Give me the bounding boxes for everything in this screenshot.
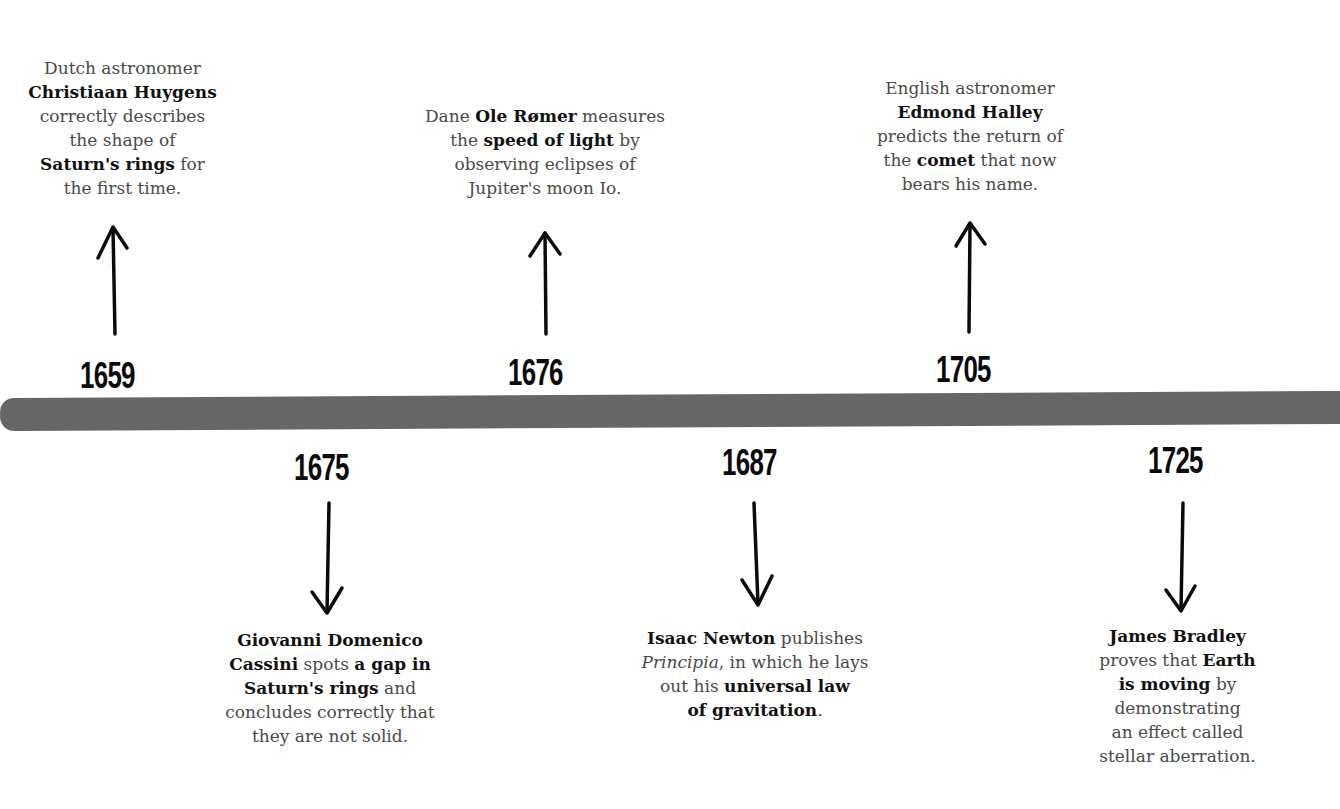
description-line: concludes correctly that <box>195 700 465 724</box>
description-line: demonstrating <box>1070 696 1285 720</box>
description-line: the speed of light by <box>390 128 700 152</box>
event-1725-description: James Bradleyproves that Earthis moving … <box>1070 624 1285 768</box>
arrow-down-icon <box>738 500 780 612</box>
description-line: the shape of <box>0 128 245 152</box>
description-line: is moving by <box>1070 672 1285 696</box>
description-line: an effect called <box>1070 720 1285 744</box>
arrow-up-icon <box>952 218 992 336</box>
description-line: bears his name. <box>845 172 1095 196</box>
description-line: English astronomer <box>845 76 1095 100</box>
description-line: Cassini spots a gap in <box>195 652 465 676</box>
event-1675-description: Giovanni DomenicoCassini spots a gap inS… <box>195 628 465 748</box>
description-line: of gravitation. <box>605 698 905 722</box>
description-line: James Bradley <box>1070 624 1285 648</box>
year-1676: 1676 <box>508 355 563 391</box>
event-1687-description: Isaac Newton publishesPrincipia, in whic… <box>605 626 905 722</box>
description-line: out his universal law <box>605 674 905 698</box>
description-line: correctly describes <box>0 104 245 128</box>
event-1659-description: Dutch astronomerChristiaan Huygenscorrec… <box>0 56 245 200</box>
timeline-band <box>0 391 1340 431</box>
description-line: Christiaan Huygens <box>0 80 245 104</box>
description-line: the first time. <box>0 176 245 200</box>
description-line: Dutch astronomer <box>0 56 245 80</box>
description-line: Saturn's rings and <box>195 676 465 700</box>
description-line: Isaac Newton publishes <box>605 626 905 650</box>
year-1705: 1705 <box>936 352 991 388</box>
description-line: they are not solid. <box>195 724 465 748</box>
description-line: Giovanni Domenico <box>195 628 465 652</box>
description-line: proves that Earth <box>1070 648 1285 672</box>
year-1675: 1675 <box>294 450 349 486</box>
arrow-up-icon <box>526 228 566 338</box>
description-line: predicts the return of <box>845 124 1095 148</box>
description-line: Edmond Halley <box>845 100 1095 124</box>
description-line: stellar aberration. <box>1070 744 1285 768</box>
arrow-down-icon <box>1162 500 1204 618</box>
year-1725: 1725 <box>1148 443 1203 479</box>
arrow-down-icon <box>308 500 350 620</box>
description-line: Principia, in which he lays <box>605 650 905 674</box>
description-line: Jupiter's moon Io. <box>390 176 700 200</box>
description-line: Dane Ole Rømer measures <box>390 104 700 128</box>
description-line: observing eclipses of <box>390 152 700 176</box>
year-1659: 1659 <box>80 358 135 394</box>
description-line: Saturn's rings for <box>0 152 245 176</box>
description-line: the comet that now <box>845 148 1095 172</box>
event-1705-description: English astronomerEdmond Halleypredicts … <box>845 76 1095 196</box>
event-1676-description: Dane Ole Rømer measuresthe speed of ligh… <box>390 104 700 200</box>
arrow-up-icon <box>95 222 135 337</box>
year-1687: 1687 <box>722 445 777 481</box>
